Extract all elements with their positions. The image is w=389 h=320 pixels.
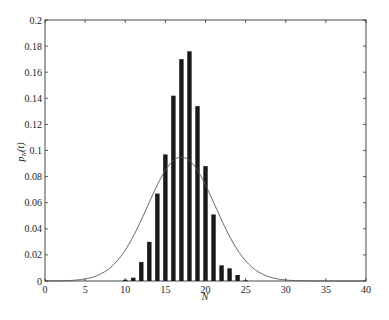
bar-N12 bbox=[139, 262, 143, 281]
x-tick-label: 5 bbox=[83, 284, 88, 295]
bar-N19 bbox=[195, 106, 199, 281]
bar-N18 bbox=[187, 51, 191, 281]
bar-N17 bbox=[179, 59, 183, 281]
y-tick-label: 0.12 bbox=[25, 119, 43, 130]
bar-N23 bbox=[227, 268, 231, 281]
x-tick-label: 15 bbox=[160, 284, 170, 295]
y-tick-label: 0.06 bbox=[25, 197, 43, 208]
histogram-bars bbox=[123, 51, 248, 281]
bar-N22 bbox=[219, 265, 223, 281]
x-tick-label: 35 bbox=[321, 284, 331, 295]
y-tick-label: 0.2 bbox=[30, 15, 43, 26]
x-tick-label: 30 bbox=[281, 284, 291, 295]
x-axis-label: N bbox=[201, 291, 210, 302]
y-tick-label: 0.16 bbox=[25, 67, 43, 78]
y-tick-label: 0.1 bbox=[30, 145, 43, 156]
y-tick-label: 0.08 bbox=[25, 171, 43, 182]
y-tick-label: 0.02 bbox=[25, 249, 43, 260]
y-tick-label: 0.14 bbox=[25, 93, 43, 104]
bar-N11 bbox=[131, 278, 135, 281]
x-tick-label: 40 bbox=[361, 284, 371, 295]
y-axis-ticks: 00.020.040.060.080.10.120.140.160.180.2 bbox=[25, 15, 367, 287]
x-tick-label: 0 bbox=[43, 284, 48, 295]
bar-N24 bbox=[235, 275, 239, 281]
x-tick-label: 25 bbox=[241, 284, 251, 295]
bar-N13 bbox=[147, 242, 151, 281]
y-tick-label: 0.04 bbox=[25, 223, 43, 234]
bar-N14 bbox=[155, 194, 159, 281]
bar-N16 bbox=[171, 96, 175, 281]
x-tick-label: 10 bbox=[120, 284, 130, 295]
bar-N20 bbox=[203, 166, 207, 281]
bar-N21 bbox=[211, 214, 215, 281]
y-axis-label: pN(t) bbox=[15, 142, 28, 163]
y-tick-label: 0.18 bbox=[25, 41, 43, 52]
chart: 0510152025303540 00.020.040.060.080.10.1… bbox=[0, 0, 389, 320]
y-tick-label: 0 bbox=[37, 276, 42, 287]
